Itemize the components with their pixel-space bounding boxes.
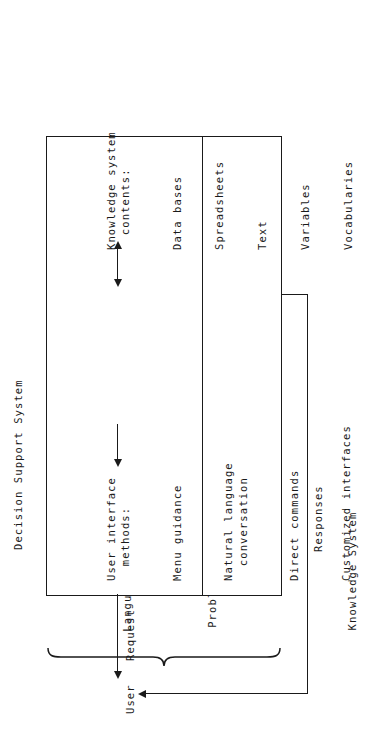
user-label: User (124, 684, 136, 714)
request-arrow-shaft (117, 594, 118, 672)
responses-line-segment-vertical-b (146, 693, 307, 694)
responses-line-segment-vertical-a (282, 294, 308, 295)
grouping-brace-icon (47, 646, 281, 668)
responses-arrow-head (138, 690, 146, 698)
language-system-item: Menu guidance (170, 425, 184, 581)
panel-knowledge-system-content: Knowledge system contents: Data bases Sp… (75, 124, 377, 250)
request-label: Request (124, 609, 136, 661)
language-system-item: Customized interfaces (339, 425, 353, 581)
knowledge-system-item: Data bases (170, 124, 184, 250)
arrow-head-pps-to-knowledge (114, 241, 122, 249)
responses-line-segment-horizontal (307, 294, 308, 694)
language-system-item: Direct commands (287, 425, 301, 581)
knowledge-system-item: Spreadsheets (212, 124, 226, 250)
knowledge-system-item: Text (255, 124, 269, 250)
language-system-item: Natural language conversation (221, 425, 250, 581)
arrow-head-knowledge-to-pps (114, 279, 122, 287)
knowledge-system-item: Vocabularies (341, 124, 355, 250)
arrow-shaft-pps-to-language (117, 424, 118, 460)
request-arrow-head (114, 671, 122, 679)
arrow-shaft-pps-knowledge (117, 248, 118, 280)
panel-language-system-content: User interface methods: Menu guidance Na… (75, 425, 377, 581)
knowledge-system-item: Variables (298, 124, 312, 250)
knowledge-system-heading: Knowledge system contents: (104, 124, 133, 250)
diagram-title: Decision Support System (12, 379, 24, 550)
diagram-canvas: Decision Support System Language System … (0, 0, 377, 732)
responses-label: Responses (312, 485, 324, 552)
arrow-head-pps-to-language (114, 459, 122, 467)
diagram-inner-canvas: Decision Support System Language System … (0, 0, 377, 732)
decision-support-system-box: User interface methods: Menu guidance Na… (46, 136, 282, 596)
